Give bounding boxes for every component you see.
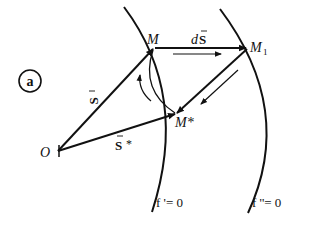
point-m1-label: M 1 (249, 40, 268, 57)
vector-diagram: a M M 1 M* O S S * d S f '= 0 f ''= 0 (0, 0, 314, 228)
svg-text:d: d (191, 32, 199, 47)
svg-text:M: M (249, 40, 263, 55)
svg-text:*: * (126, 137, 132, 151)
surface-f-prime-label: f '= 0 (156, 195, 183, 210)
surface-f-double-prime-label: f ''= 0 (252, 195, 281, 210)
point-m-star-label: M* (174, 115, 194, 130)
vector-s-star-label: S * (115, 136, 132, 153)
vector-m1-to-mstar-arrow (177, 49, 247, 113)
surface-f-prime-curve (124, 7, 166, 212)
rotation-arrow (140, 75, 151, 101)
panel-label-text: a (27, 74, 34, 89)
svg-text:S: S (115, 138, 122, 153)
origin-label: O (40, 145, 50, 160)
vector-s-label: S (86, 91, 101, 105)
panel-label-a: a (19, 70, 41, 92)
svg-text:S: S (86, 97, 101, 104)
point-m-label: M (146, 32, 160, 47)
svg-text:1: 1 (263, 47, 268, 57)
vector-ds-label: d S (191, 31, 207, 47)
svg-text:S: S (199, 32, 206, 47)
